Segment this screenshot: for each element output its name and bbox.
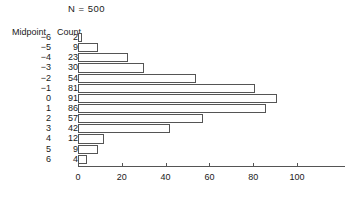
histogram-bar (78, 33, 82, 42)
cell-midpoint: 5 (6, 144, 51, 154)
cell-count: 86 (50, 103, 78, 113)
x-axis-tick-label: 20 (102, 172, 142, 182)
cell-midpoint: −5 (6, 42, 51, 52)
x-axis-tick-label: 0 (58, 172, 98, 182)
histogram-bar (78, 43, 98, 52)
cell-count: 81 (50, 83, 78, 93)
cell-midpoint: −2 (6, 73, 51, 83)
histogram-bar (78, 94, 277, 103)
histogram-bar (78, 104, 266, 113)
histogram-bar (78, 63, 144, 72)
histogram-bar (78, 114, 203, 123)
cell-midpoint: 6 (6, 154, 51, 164)
cell-count: 9 (50, 42, 78, 52)
x-axis-tick (122, 163, 123, 167)
cell-count: 2 (50, 32, 78, 42)
cell-midpoint: 4 (6, 133, 51, 143)
cell-midpoint: −4 (6, 52, 51, 62)
x-axis-tick (209, 163, 210, 167)
x-axis-tick (166, 163, 167, 167)
cell-count: 42 (50, 123, 78, 133)
table-row: 64 (0, 155, 363, 165)
cell-count: 12 (50, 133, 78, 143)
x-axis-tick-label: 80 (233, 172, 273, 182)
cell-midpoint: −3 (6, 62, 51, 72)
cell-count: 9 (50, 144, 78, 154)
histogram-bar (78, 155, 87, 164)
x-axis-tick (253, 163, 254, 167)
x-axis-tick-label: 40 (146, 172, 186, 182)
histogram-bar (78, 84, 255, 93)
cell-midpoint: 2 (6, 113, 51, 123)
cell-midpoint: −6 (6, 32, 51, 42)
x-axis-tick (78, 163, 79, 167)
x-axis-tick (297, 163, 298, 167)
cell-count: 57 (50, 113, 78, 123)
x-axis-line (78, 166, 345, 167)
histogram-bar (78, 124, 170, 133)
cell-count: 54 (50, 73, 78, 83)
histogram-bar (78, 53, 128, 62)
x-axis-tick-label: 60 (189, 172, 229, 182)
cell-midpoint: 0 (6, 93, 51, 103)
cell-count: 4 (50, 154, 78, 164)
cell-midpoint: 1 (6, 103, 51, 113)
cell-midpoint: 3 (6, 123, 51, 133)
histogram-figure: N = 500 Midpoint Count −62−59−423−330−25… (0, 0, 363, 197)
cell-count: 30 (50, 62, 78, 72)
histogram-rows: −62−59−423−330−254−181091186257342412596… (0, 33, 363, 165)
cell-count: 23 (50, 52, 78, 62)
chart-title: N = 500 (68, 3, 105, 14)
histogram-bar (78, 74, 196, 83)
histogram-bar (78, 145, 98, 154)
x-axis-tick-label: 100 (277, 172, 317, 182)
cell-count: 91 (50, 93, 78, 103)
histogram-bar (78, 134, 104, 143)
cell-midpoint: −1 (6, 83, 51, 93)
